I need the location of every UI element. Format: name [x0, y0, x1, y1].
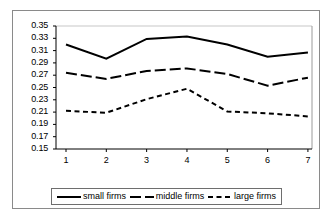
y-axis-tick-label: 0.29	[18, 58, 48, 67]
series-layer	[66, 36, 308, 116]
legend-item[interactable]: middle firms	[130, 192, 205, 201]
y-axis-tick-label: 0.33	[18, 33, 48, 42]
chart-legend: small firmsmiddle firmslarge firms	[51, 188, 282, 205]
chart-figure: 0.350.330.310.290.270.250.230.210.190.17…	[12, 10, 320, 209]
y-axis-tick-label: 0.35	[18, 21, 48, 30]
x-axis-tick-label: 2	[99, 156, 113, 165]
legend-label: large firms	[234, 192, 276, 201]
y-axis-tick-label: 0.19	[18, 119, 48, 128]
y-axis-tick-label: 0.25	[18, 83, 48, 92]
y-axis-tick-label: 0.31	[18, 46, 48, 55]
legend-label: small firms	[83, 192, 126, 201]
y-axis-tick-label: 0.27	[18, 70, 48, 79]
y-axis-tick-label: 0.23	[18, 95, 48, 104]
legend-label: middle firms	[156, 192, 205, 201]
y-axis-tick-label: 0.21	[18, 107, 48, 116]
x-axis-tick-label: 6	[261, 156, 275, 165]
plot-area: 0.350.330.310.290.270.250.230.210.190.17…	[13, 11, 319, 167]
x-axis-tick-label: 3	[140, 156, 154, 165]
legend-item[interactable]: small firms	[57, 192, 126, 201]
series-line-small-firms	[66, 36, 308, 58]
y-axis-tick-label: 0.15	[18, 144, 48, 153]
legend-swatch-short-dash-icon	[208, 193, 232, 201]
x-axis-tick-label: 4	[180, 156, 194, 165]
x-axis-tick-label: 7	[301, 156, 315, 165]
legend-swatch-long-dash-icon	[130, 193, 154, 201]
series-line-middle-firms	[66, 68, 308, 85]
x-axis-tick-label: 5	[220, 156, 234, 165]
series-line-large-firms	[66, 89, 308, 117]
y-axis-tick-label: 0.17	[18, 132, 48, 141]
line-chart-svg	[13, 11, 319, 167]
legend-swatch-solid-icon	[57, 193, 81, 201]
legend-item[interactable]: large firms	[208, 192, 276, 201]
x-axis-tick-label: 1	[59, 156, 73, 165]
